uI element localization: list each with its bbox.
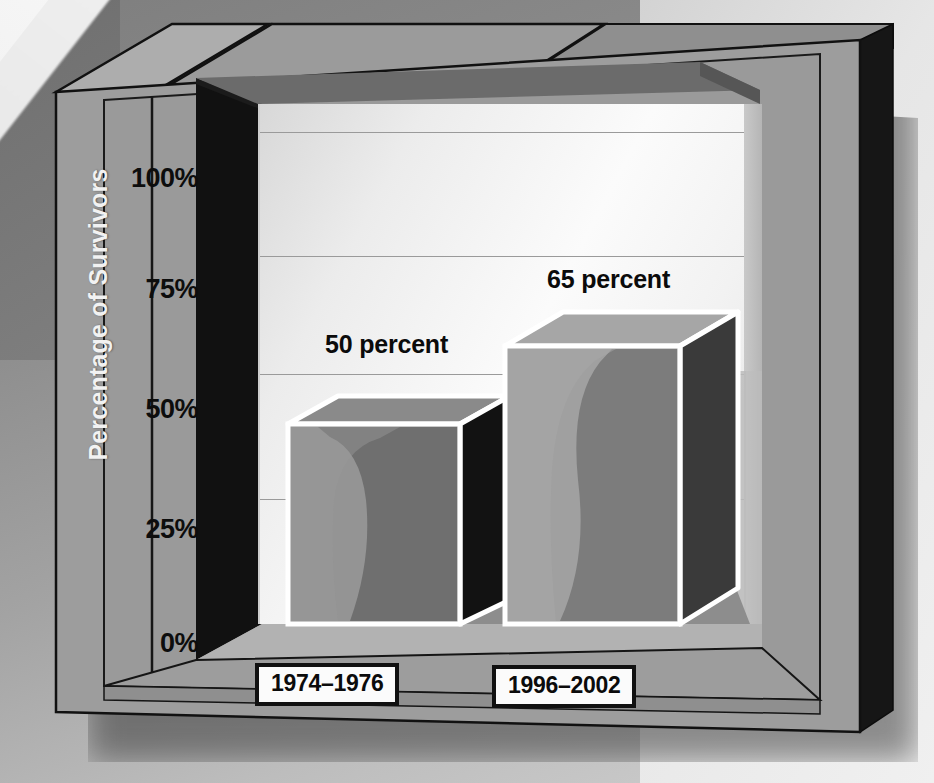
y-tick-75: 75% [78,274,198,305]
chart-canvas: Percentage of Survivors 100% 75% 50% 25%… [0,0,934,783]
category-label-2: 1996–2002 [492,665,636,708]
y-tick-50: 50% [78,394,198,425]
bar-2-value-label: 65 percent [547,265,670,294]
y-tick-100: 100% [78,163,198,194]
y-tick-25: 25% [78,514,198,545]
y-tick-0: 0% [78,628,198,659]
chart-base [0,0,934,783]
category-label-1: 1974–1976 [255,663,399,706]
bar-1-value-label: 50 percent [325,330,448,359]
